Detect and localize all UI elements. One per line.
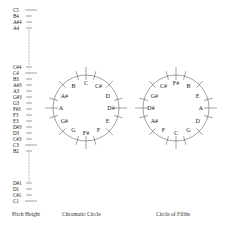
chromatic-note-label: D (105, 93, 110, 99)
fifths-tick (149, 129, 155, 135)
fifths-note-label: D# (147, 105, 154, 111)
chromatic-note-label: G# (61, 118, 68, 124)
chromatic-note-label: D# (107, 105, 114, 111)
chromatic-note-label: F (97, 127, 101, 133)
chromatic-tick (107, 129, 113, 135)
pitch-height-caption: Pitch Height (12, 211, 40, 217)
fifths-note-label: G (186, 127, 191, 133)
chromatic-tick (59, 81, 65, 87)
chromatic-note-label: F# (83, 130, 89, 136)
fifths-tick (197, 129, 203, 135)
chromatic-tick (107, 81, 113, 87)
fifths-note-label: D (195, 118, 200, 124)
fifths-note-label: G# (151, 93, 158, 99)
chromatic-note-label: E (106, 118, 110, 124)
fifths-note-label: A# (151, 118, 158, 124)
chromatic-note-label: C (84, 80, 88, 86)
chromatic-tick (59, 129, 65, 135)
fifths-note-label: B (186, 83, 190, 89)
chromatic-note-label: G (71, 127, 76, 133)
chromatic-circle-caption: Chromatic Circle (62, 211, 101, 217)
fifths-note-label: E (196, 93, 200, 99)
circle-of-fifths-caption: Circle of Fifths (156, 211, 190, 217)
fifths-note-label: C# (160, 83, 167, 89)
pitch-diagrams: CC#DD#EFF#GG#AA#BF#BEADGCFA#D#G#C# (0, 0, 225, 231)
chromatic-note-label: C# (95, 83, 102, 89)
fifths-note-label: A (199, 105, 204, 111)
fifths-note-label: F# (173, 80, 179, 86)
fifths-tick (197, 81, 203, 87)
fifths-tick (149, 81, 155, 87)
chromatic-note-label: A (59, 105, 64, 111)
chromatic-note-label: A# (61, 93, 68, 99)
fifths-note-label: C (174, 130, 178, 136)
fifths-note-label: F (162, 127, 166, 133)
chromatic-note-label: B (71, 83, 75, 89)
